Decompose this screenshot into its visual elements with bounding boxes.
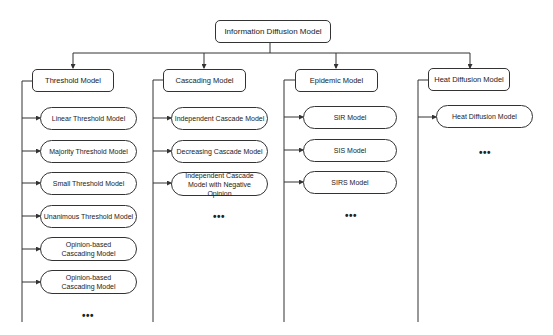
category-heat-diffusion-model: Heat Diffusion Model xyxy=(428,68,510,91)
model-label: Independent Cascade Model with Negative … xyxy=(176,171,263,198)
model-node: SIR Model xyxy=(303,106,397,129)
category-label: Cascading Model xyxy=(176,76,234,85)
more-ellipsis: ••• xyxy=(204,214,234,220)
model-node: Independent Cascade Model xyxy=(171,107,268,130)
model-node: Decreasing Cascade Model xyxy=(171,140,268,163)
category-threshold-model: Threshold Model xyxy=(32,69,114,92)
model-node: Linear Threshold Model xyxy=(40,107,137,130)
model-label: Heat Diffusion Model xyxy=(452,112,517,121)
model-label: Opinion-based Cascading Model xyxy=(51,273,126,291)
model-label: SIS Model xyxy=(334,146,366,155)
category-epidemic-model: Epidemic Model xyxy=(295,69,378,92)
category-label: Threshold Model xyxy=(45,76,101,85)
model-label: Majority Threshold Model xyxy=(49,147,127,156)
root-node-label: Information Diffusion Model xyxy=(224,27,321,36)
model-label: Independent Cascade Model xyxy=(175,114,265,123)
model-label: Decreasing Cascade Model xyxy=(177,147,263,156)
model-label: Opinion-based Cascading Model xyxy=(51,240,126,258)
model-label: SIR Model xyxy=(334,113,367,122)
model-label: Linear Threshold Model xyxy=(52,114,125,123)
model-node: Unanimous Threshold Model xyxy=(40,205,137,228)
more-ellipsis: ••• xyxy=(336,213,366,219)
model-label: SIRS Model xyxy=(331,178,368,187)
model-node: Independent Cascade Model with Negative … xyxy=(171,172,268,196)
model-node: Small Threshold Model xyxy=(40,172,137,195)
model-node: Majority Threshold Model xyxy=(40,140,137,163)
root-node: Information Diffusion Model xyxy=(215,20,331,43)
model-node: Opinion-based Cascading Model xyxy=(40,237,137,261)
model-node: Heat Diffusion Model xyxy=(436,105,533,128)
model-node: SIRS Model xyxy=(303,171,397,194)
category-label: Heat Diffusion Model xyxy=(434,75,503,84)
model-node: SIS Model xyxy=(303,139,397,162)
model-label: Unanimous Threshold Model xyxy=(44,212,133,221)
category-label: Epidemic Model xyxy=(310,76,363,85)
more-ellipsis: ••• xyxy=(470,150,500,156)
model-label: Small Threshold Model xyxy=(53,179,124,188)
model-node: Opinion-based Cascading Model xyxy=(40,270,137,294)
category-cascading-model: Cascading Model xyxy=(163,69,246,92)
more-ellipsis: ••• xyxy=(73,313,103,319)
